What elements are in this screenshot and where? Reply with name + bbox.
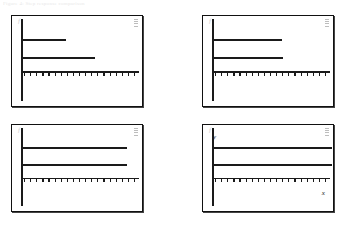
- x-axis-tick: [288, 73, 289, 76]
- x-axis-tick: [319, 73, 320, 76]
- x-axis-label: x: [322, 190, 325, 197]
- x-axis-tick: [282, 179, 283, 182]
- x-axis-tick: [48, 179, 49, 182]
- x-axis-tick: [313, 73, 314, 76]
- x-axis-tick: [67, 179, 68, 182]
- x-axis-tick: [116, 179, 117, 182]
- x-axis-tick: [301, 73, 302, 76]
- x-axis-tick: [61, 73, 62, 76]
- chart-panel-top-right: f: [202, 15, 334, 107]
- x-axis-tick: [215, 179, 216, 182]
- x-axis-tick: [85, 179, 86, 182]
- x-axis-tick: [325, 73, 326, 76]
- chart-panel-top-left: f: [11, 15, 143, 107]
- x-axis-tick: [110, 73, 111, 76]
- x-axis-tick: [36, 73, 37, 76]
- x-axis-tick: [55, 73, 56, 76]
- x-axis-tick: [116, 73, 117, 76]
- x-axis-tick: [258, 179, 259, 182]
- x-axis-tick: [252, 179, 253, 182]
- x-axis-tick: [73, 179, 74, 182]
- x-axis-tick: [221, 179, 222, 182]
- y-axis-line: [21, 128, 23, 206]
- x-axis-tick: [258, 73, 259, 76]
- y-axis-line: [21, 19, 23, 101]
- x-axis-tick: [85, 73, 86, 76]
- data-line-upper-segment: [21, 147, 127, 149]
- x-axis-tick: [288, 179, 289, 182]
- x-axis-tick: [67, 73, 68, 76]
- x-axis-tick: [110, 179, 111, 182]
- x-axis-tick: [79, 179, 80, 182]
- x-axis-tick: [294, 73, 295, 76]
- x-axis-tick: [301, 179, 302, 182]
- x-axis-tick: [42, 73, 43, 76]
- chart-panel-bottom-left: f: [11, 124, 143, 212]
- x-axis-tick: [42, 179, 43, 182]
- plot-area: f: [12, 125, 142, 211]
- x-axis-tick: [227, 179, 228, 182]
- data-line-lower-segment: [212, 164, 332, 166]
- x-axis-tick: [307, 179, 308, 182]
- x-axis-tick: [264, 179, 265, 182]
- y-axis-line: [212, 19, 214, 101]
- x-axis-tick: [276, 179, 277, 182]
- x-axis-tick: [97, 179, 98, 182]
- x-axis-tick: [313, 179, 314, 182]
- x-axis-line: [21, 71, 139, 73]
- x-axis-tick: [91, 73, 92, 76]
- corner-tick-marks: [325, 19, 329, 28]
- f-marker-label: f: [18, 127, 20, 134]
- plot-area: f: [203, 16, 333, 106]
- x-axis-tick: [55, 179, 56, 182]
- x-axis-tick: [122, 73, 123, 76]
- corner-tick-marks: [134, 128, 138, 137]
- x-axis-line: [212, 178, 330, 180]
- data-line-upper-segment: [21, 39, 66, 41]
- x-axis-tick: [325, 179, 326, 182]
- x-axis-tick: [61, 179, 62, 182]
- data-line-lower-segment: [21, 57, 95, 59]
- x-axis-tick: [134, 73, 135, 76]
- x-axis-tick: [48, 73, 49, 76]
- x-axis-tick: [270, 179, 271, 182]
- x-axis-tick: [103, 179, 104, 182]
- x-axis-line: [212, 71, 330, 73]
- x-axis-tick: [24, 73, 25, 76]
- x-axis-tick: [221, 73, 222, 76]
- chart-panel-bottom-right: fyx: [202, 124, 334, 212]
- figure-panel-grid: ffffyx: [0, 0, 346, 227]
- data-line-upper-segment: [212, 39, 282, 41]
- plot-area: fyx: [203, 125, 333, 211]
- x-axis-tick: [122, 179, 123, 182]
- data-line-upper-segment: [212, 147, 332, 149]
- x-axis-tick: [227, 73, 228, 76]
- x-axis-tick: [239, 179, 240, 182]
- x-axis-tick: [270, 73, 271, 76]
- corner-tick-marks: [134, 19, 138, 28]
- f-marker-label: f: [18, 18, 20, 25]
- x-axis-tick: [239, 73, 240, 76]
- x-axis-tick: [30, 179, 31, 182]
- x-axis-tick: [307, 73, 308, 76]
- x-axis-tick: [282, 73, 283, 76]
- x-axis-tick: [246, 73, 247, 76]
- x-axis-tick: [264, 73, 265, 76]
- f-marker-label: f: [209, 18, 211, 25]
- x-axis-tick: [319, 179, 320, 182]
- x-axis-tick: [97, 73, 98, 76]
- x-axis-tick: [134, 179, 135, 182]
- x-axis-line: [21, 178, 139, 180]
- x-axis-tick: [79, 73, 80, 76]
- x-axis-tick: [103, 73, 104, 76]
- f-marker-label: f: [209, 127, 211, 134]
- x-axis-tick: [24, 179, 25, 182]
- y-axis-label: y: [213, 134, 216, 141]
- x-axis-tick: [233, 73, 234, 76]
- x-axis-tick: [91, 179, 92, 182]
- plot-area: f: [12, 16, 142, 106]
- x-axis-tick: [276, 73, 277, 76]
- x-axis-tick: [73, 73, 74, 76]
- data-line-lower-segment: [212, 57, 283, 59]
- x-axis-tick: [252, 73, 253, 76]
